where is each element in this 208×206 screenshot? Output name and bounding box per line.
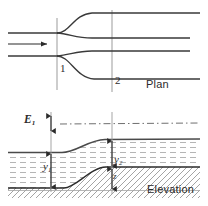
figure-vector-canvas [0,0,208,206]
plan-view-group [8,10,200,92]
bed-rise-label: z [113,172,117,181]
upstream-depth-subscript: 1 [48,166,51,173]
channel-transition-figure: 1 2 Plan E1 y1 y2 z Elevation [0,0,208,206]
upstream-depth-label: y1 [43,161,51,172]
plan-outer-lower-wall [57,56,200,79]
downstream-depth-label: y2 [114,154,122,165]
plan-inner-lower-wall [57,51,190,56]
plan-inner-upper-wall [57,33,190,38]
plan-outer-upper-wall [57,13,200,33]
plan-section-label-2: 2 [115,75,121,86]
plan-view-label: Plan [146,79,169,90]
energy-grade-line [60,123,200,124]
water-body-downstream [112,139,200,167]
specific-energy-label: E1 [24,114,35,126]
elevation-view-label: Elevation [147,184,194,195]
plan-section-label-1: 1 [60,63,66,74]
specific-energy-subscript: 1 [32,119,36,127]
downstream-depth-subscript: 2 [119,159,122,166]
specific-energy-symbol: E [24,113,32,125]
